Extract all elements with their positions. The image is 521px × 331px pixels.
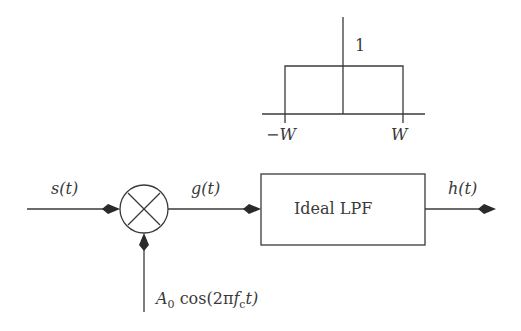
demodulator-block-diagram — [0, 0, 521, 331]
input-signal-label: s(t) — [51, 179, 78, 198]
carrier-amplitude: A — [156, 289, 168, 308]
height-label: 1 — [355, 36, 365, 55]
arrow-into-lpf-icon — [243, 204, 261, 214]
carrier-amplitude-sub: 0 — [168, 298, 175, 311]
arrow-into-multiplier-icon — [102, 204, 120, 214]
left-cutoff-label: −W — [266, 125, 296, 144]
mixed-signal-label: g(t) — [191, 179, 220, 198]
arrow-output-icon — [478, 204, 496, 214]
lpf-frequency-response-plot — [262, 17, 425, 123]
right-cutoff-label: W — [391, 125, 407, 144]
carrier-tail: t) — [246, 289, 259, 308]
carrier-signal-label: A0 cos(2πfct) — [156, 289, 258, 311]
arrow-carrier-into-multiplier-icon — [139, 233, 149, 251]
output-signal-label: h(t) — [448, 179, 477, 198]
carrier-func: cos(2π — [180, 289, 234, 308]
lpf-block-label: Ideal LPF — [294, 199, 372, 218]
